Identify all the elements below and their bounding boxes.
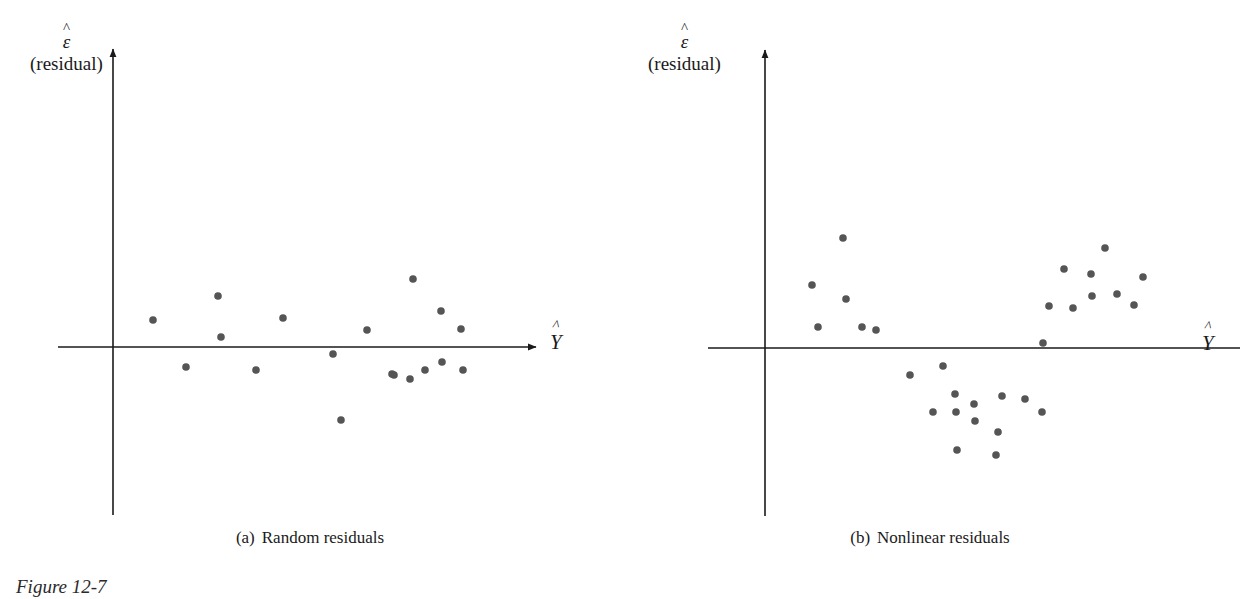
data-point bbox=[337, 416, 345, 424]
figure-number-label: Figure 12-7 bbox=[16, 576, 107, 598]
data-point bbox=[363, 326, 371, 334]
data-point bbox=[1039, 339, 1047, 347]
data-point bbox=[1045, 302, 1053, 310]
data-point bbox=[814, 323, 822, 331]
data-point bbox=[457, 325, 465, 333]
data-point bbox=[858, 323, 866, 331]
data-point bbox=[953, 446, 961, 454]
data-point bbox=[992, 451, 1000, 459]
data-point bbox=[149, 316, 157, 324]
data-point bbox=[438, 358, 446, 366]
data-point bbox=[252, 366, 260, 374]
figure-container: ^ ε (residual) ^ Y (a)Random resi bbox=[0, 0, 1240, 599]
data-point bbox=[214, 292, 222, 300]
panel-nonlinear-residuals: ^ ε (residual) ^ Y (b)Nonlinear r bbox=[620, 0, 1240, 560]
data-point bbox=[1130, 301, 1138, 309]
panel-random-residuals: ^ ε (residual) ^ Y (a)Random resi bbox=[0, 0, 620, 560]
data-point bbox=[998, 392, 1006, 400]
data-point bbox=[421, 366, 429, 374]
data-point bbox=[1101, 244, 1109, 252]
data-point bbox=[808, 281, 816, 289]
panel-caption-tag-b: (b) bbox=[850, 528, 870, 547]
data-point bbox=[329, 350, 337, 358]
data-point-group-b bbox=[808, 234, 1147, 459]
data-point bbox=[437, 307, 445, 315]
data-point bbox=[929, 408, 937, 416]
data-point bbox=[970, 400, 978, 408]
data-point bbox=[406, 375, 414, 383]
data-point bbox=[971, 417, 979, 425]
data-point bbox=[994, 428, 1002, 436]
data-point bbox=[1139, 273, 1147, 281]
data-point bbox=[182, 363, 190, 371]
data-point bbox=[872, 326, 880, 334]
data-point bbox=[1069, 304, 1077, 312]
panel-caption-text-a: Random residuals bbox=[262, 528, 384, 547]
scatter-plot-a bbox=[0, 0, 620, 530]
data-point-group-a bbox=[149, 275, 467, 424]
data-point bbox=[1087, 270, 1095, 278]
data-point bbox=[842, 295, 850, 303]
panel-caption-text-b: Nonlinear residuals bbox=[877, 528, 1010, 547]
data-point bbox=[906, 371, 914, 379]
data-point bbox=[1113, 290, 1121, 298]
data-point bbox=[279, 314, 287, 322]
data-point bbox=[952, 408, 960, 416]
data-point bbox=[1021, 395, 1029, 403]
data-point bbox=[409, 275, 417, 283]
data-point bbox=[459, 366, 467, 374]
panel-caption-tag-a: (a) bbox=[236, 528, 255, 547]
data-point bbox=[839, 234, 847, 242]
panel-caption-b: (b)Nonlinear residuals bbox=[620, 528, 1240, 548]
data-point bbox=[217, 333, 225, 341]
data-point bbox=[939, 362, 947, 370]
data-point bbox=[1038, 408, 1046, 416]
scatter-plot-b bbox=[620, 0, 1240, 530]
data-point bbox=[390, 371, 398, 379]
data-point bbox=[1088, 292, 1096, 300]
data-point bbox=[951, 390, 959, 398]
panel-caption-a: (a)Random residuals bbox=[0, 528, 620, 548]
data-point bbox=[1060, 265, 1068, 273]
